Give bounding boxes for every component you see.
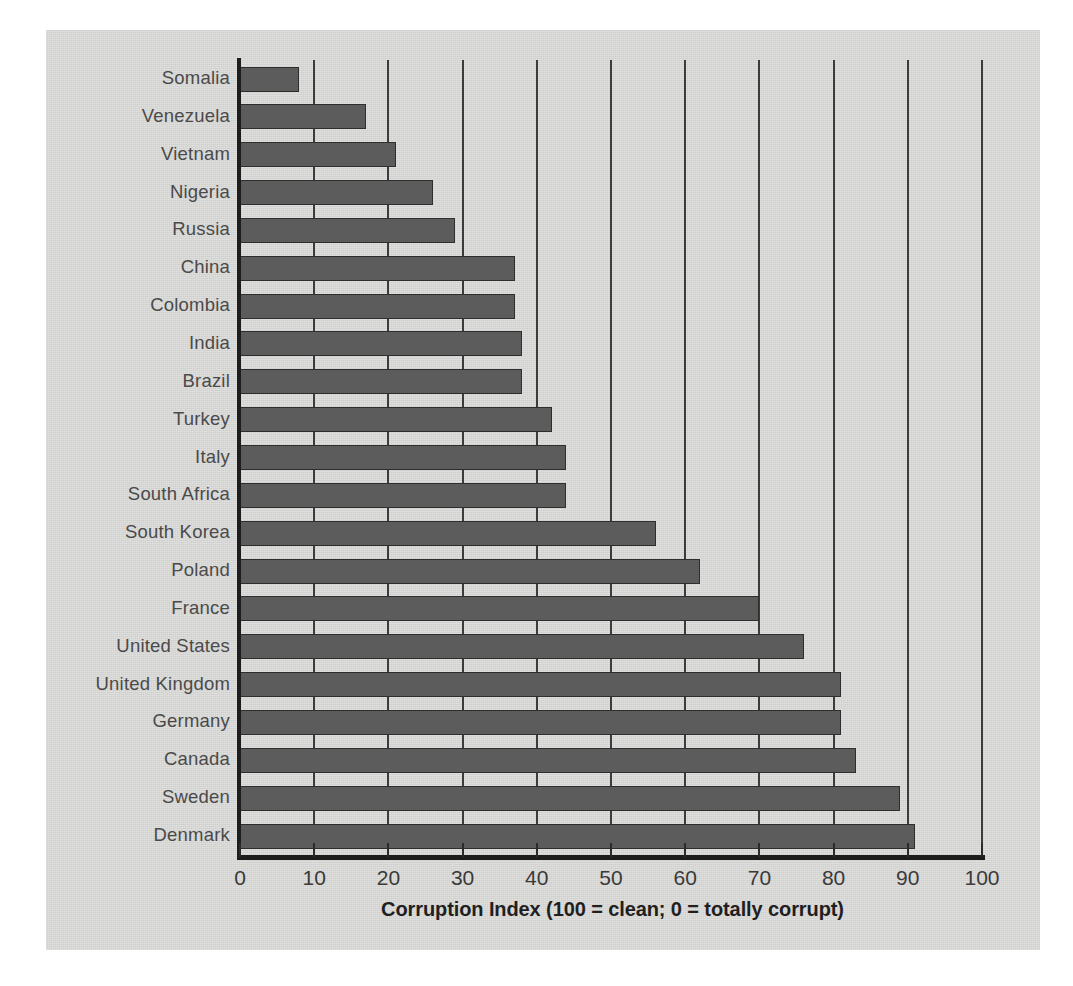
bar — [240, 180, 433, 205]
category-label: Nigeria — [10, 181, 230, 203]
bar — [240, 748, 856, 773]
bar-chart: SomaliaVenezuelaVietnamNigeriaRussiaChin… — [0, 0, 1073, 986]
category-label: India — [10, 332, 230, 354]
tick-label-10: 10 — [284, 866, 344, 890]
tick-label-20: 20 — [358, 866, 418, 890]
category-label: Sweden — [10, 786, 230, 808]
gridline-90 — [907, 60, 909, 855]
gridline-60 — [684, 60, 686, 855]
bar — [240, 407, 552, 432]
tick-mark-50 — [610, 843, 612, 857]
bar — [240, 710, 841, 735]
tick-label-60: 60 — [655, 866, 715, 890]
tick-label-50: 50 — [581, 866, 641, 890]
category-label: Brazil — [10, 370, 230, 392]
tick-label-80: 80 — [804, 866, 864, 890]
gridline-70 — [758, 60, 760, 855]
category-label: Germany — [10, 710, 230, 732]
tick-mark-10 — [313, 843, 315, 857]
category-label: Venezuela — [10, 105, 230, 127]
tick-label-30: 30 — [433, 866, 493, 890]
y-axis-line — [237, 58, 241, 857]
bar — [240, 331, 522, 356]
category-label: Canada — [10, 748, 230, 770]
category-label: Italy — [10, 446, 230, 468]
bar — [240, 521, 656, 546]
tick-mark-40 — [536, 843, 538, 857]
bar — [240, 824, 915, 849]
bar — [240, 104, 366, 129]
tick-mark-90 — [907, 843, 909, 857]
category-label: Turkey — [10, 408, 230, 430]
bar — [240, 445, 566, 470]
bar — [240, 483, 566, 508]
bar — [240, 67, 299, 92]
tick-mark-70 — [758, 843, 760, 857]
bar — [240, 634, 804, 659]
category-label: South Korea — [10, 521, 230, 543]
gridline-50 — [610, 60, 612, 855]
bar — [240, 294, 515, 319]
chart-page: SomaliaVenezuelaVietnamNigeriaRussiaChin… — [0, 0, 1073, 986]
tick-label-100: 100 — [952, 866, 1012, 890]
tick-label-40: 40 — [507, 866, 567, 890]
tick-mark-80 — [833, 843, 835, 857]
category-label: China — [10, 256, 230, 278]
category-label: Somalia — [10, 67, 230, 89]
category-label: Russia — [10, 218, 230, 240]
tick-mark-30 — [462, 843, 464, 857]
bar — [240, 218, 455, 243]
category-label: United Kingdom — [10, 673, 230, 695]
x-axis-label: Corruption Index (100 = clean; 0 = total… — [240, 898, 985, 921]
category-label: United States — [10, 635, 230, 657]
bar — [240, 369, 522, 394]
category-label: Vietnam — [10, 143, 230, 165]
gridline-80 — [833, 60, 835, 855]
bar — [240, 256, 515, 281]
category-label: South Africa — [10, 483, 230, 505]
category-label: Denmark — [10, 824, 230, 846]
bar — [240, 596, 759, 621]
gridline-100 — [981, 60, 983, 855]
category-label: France — [10, 597, 230, 619]
tick-mark-60 — [684, 843, 686, 857]
tick-mark-20 — [387, 843, 389, 857]
bar — [240, 559, 700, 584]
category-label: Poland — [10, 559, 230, 581]
bar — [240, 142, 396, 167]
bar — [240, 786, 900, 811]
tick-label-0: 0 — [210, 866, 270, 890]
tick-mark-100 — [981, 843, 983, 857]
tick-mark-0 — [239, 843, 241, 857]
tick-label-70: 70 — [729, 866, 789, 890]
bar — [240, 672, 841, 697]
category-label: Colombia — [10, 294, 230, 316]
tick-label-90: 90 — [878, 866, 938, 890]
